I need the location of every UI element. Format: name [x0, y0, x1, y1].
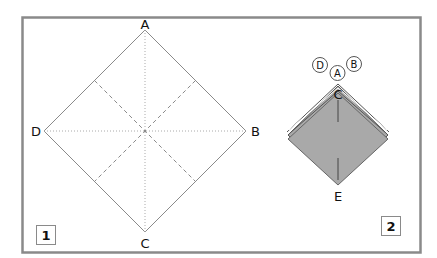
step-number: 1	[41, 228, 50, 243]
corner-label-a: A	[141, 17, 150, 32]
corner-label-b: B	[251, 124, 260, 139]
origami-diagram: A B C D 1 C E D A B 2	[0, 0, 437, 258]
corner-label-c: C	[140, 236, 149, 251]
circled-label-b: B	[351, 59, 358, 70]
circled-label-d: D	[316, 60, 324, 71]
bottom-label-e: E	[334, 189, 342, 204]
center-label-c: C	[333, 87, 342, 102]
corner-label-d: D	[31, 124, 41, 139]
step-number: 2	[386, 219, 395, 234]
circled-label-a: A	[334, 68, 341, 79]
